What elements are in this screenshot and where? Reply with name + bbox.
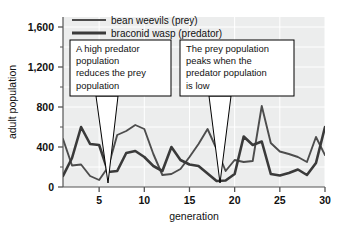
callout-line: population — [76, 80, 119, 91]
predator-prey-line-chart: 04008001,2001,600 51015202530 generation… — [0, 0, 342, 237]
y-axis-title: adult population — [6, 65, 18, 139]
callout-line: A high predator — [76, 43, 140, 54]
callout-line: reduces the prey — [76, 67, 146, 78]
callout-line: population — [76, 55, 119, 66]
chart-figure: 04008001,2001,600 51015202530 generation… — [0, 0, 342, 237]
x-tick-label: 20 — [229, 194, 241, 206]
y-tick-label: 1,200 — [28, 61, 54, 73]
x-tick-label: 5 — [96, 194, 102, 206]
y-tick-label: 400 — [36, 141, 54, 153]
x-tick-label: 10 — [138, 194, 150, 206]
callout-line: is low — [186, 80, 210, 91]
y-tick-label: 800 — [36, 101, 54, 113]
x-axis-title: generation — [169, 210, 219, 222]
x-tick-label: 15 — [184, 194, 196, 206]
y-tick-label: 0 — [48, 181, 54, 193]
x-tick-label: 30 — [319, 194, 331, 206]
callout-line: predator population — [186, 67, 267, 78]
callout-line: peaks when the — [186, 55, 252, 66]
callout-line: The prey population — [186, 43, 269, 54]
legend-label: bean weevils (prey) — [111, 15, 198, 26]
x-tick-label: 25 — [274, 194, 286, 206]
y-tick-label: 1,600 — [28, 21, 54, 33]
legend-label: braconid wasp (predator) — [111, 28, 222, 39]
